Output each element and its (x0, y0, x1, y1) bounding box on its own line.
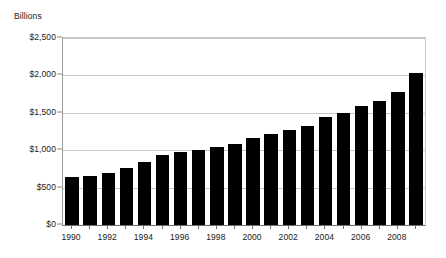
bar (283, 130, 296, 225)
bar (192, 150, 205, 225)
x-axis-tick-mark (306, 225, 307, 229)
bar (174, 152, 187, 225)
x-axis-tick-label: 1990 (61, 232, 80, 242)
x-axis-tick-mark (89, 225, 90, 229)
bar (156, 155, 169, 225)
bar (355, 106, 368, 225)
bar (264, 134, 277, 225)
y-axis-tick-label: $1,000 (29, 144, 56, 154)
bar (83, 176, 96, 225)
y-axis-tick-label: $500 (37, 182, 56, 192)
bar (391, 92, 404, 225)
x-axis-tick-mark (234, 225, 235, 229)
x-axis-tick-mark (252, 225, 253, 229)
y-axis-title: Billions (14, 11, 42, 21)
x-axis-tick-mark (270, 225, 271, 229)
bar (337, 113, 350, 225)
bar (228, 144, 241, 225)
x-axis-tick-mark (180, 225, 181, 229)
x-axis-tick-mark (288, 225, 289, 229)
x-axis-tick-label: 2000 (242, 232, 261, 242)
x-axis-tick-label: 2002 (279, 232, 298, 242)
y-axis-tick-label: $2,000 (29, 69, 56, 79)
x-axis-tick-label: 2004 (315, 232, 334, 242)
bar (246, 138, 259, 225)
y-axis-tick-label: $2,500 (29, 32, 56, 42)
x-axis-tick-label: 1996 (170, 232, 189, 242)
bar (409, 73, 422, 225)
bar (319, 117, 332, 225)
x-axis-tick-mark (324, 225, 325, 229)
bar (301, 126, 314, 225)
x-axis-tick-mark (198, 225, 199, 229)
plot-area (62, 37, 426, 226)
bar-chart-figure: Billions $0$500$1,000$1,500$2,000$2,500 … (0, 0, 446, 258)
bar-group (63, 38, 425, 225)
x-axis-tick-label: 2008 (387, 232, 406, 242)
bar (138, 162, 151, 225)
x-axis-tick-label: 2006 (351, 232, 370, 242)
x-axis-tick-mark (216, 225, 217, 229)
x-axis-tick-mark (125, 225, 126, 229)
bar (102, 173, 115, 225)
bar (210, 147, 223, 225)
x-axis-tick-mark (162, 225, 163, 229)
x-axis-tick-mark (143, 225, 144, 229)
x-axis-tick-mark (379, 225, 380, 229)
x-axis-tick-mark (361, 225, 362, 229)
x-axis-tick-mark (343, 225, 344, 229)
x-axis-tick-mark (397, 225, 398, 229)
y-axis-tick-label: $1,500 (29, 107, 56, 117)
x-axis-tick-mark (71, 225, 72, 229)
x-axis-tick-label: 1992 (98, 232, 117, 242)
y-axis-tick-label: $0 (46, 219, 56, 229)
bar (120, 168, 133, 225)
x-axis-tick-mark (415, 225, 416, 229)
bar (65, 177, 78, 225)
x-axis-tick-label: 1994 (134, 232, 153, 242)
x-axis-tick-label: 1998 (206, 232, 225, 242)
bar (373, 101, 386, 225)
x-axis-tick-mark (107, 225, 108, 229)
